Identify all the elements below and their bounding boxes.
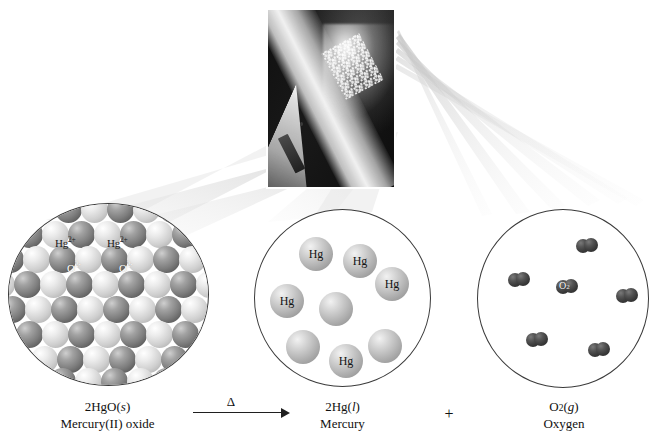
oxygen-molecule (576, 238, 598, 253)
atom-label-hg: Hg (339, 355, 354, 367)
product-oxygen-name: Oxygen (478, 415, 650, 432)
mercury-atom: Hg (329, 344, 363, 378)
mercury-atom: Hg (270, 284, 304, 318)
mercury-atom: Hg (343, 244, 377, 278)
mercury-atom-unlabeled (368, 329, 402, 363)
oxygen-molecule (526, 332, 548, 347)
magnified-view-mercury: Hg Hg Hg Hg Hg (254, 209, 431, 387)
ion-label-o-2: O2- (119, 261, 133, 274)
product-oxygen-formula: O2(g) (478, 398, 650, 415)
caption-reactant: 2HgO(s) Mercury(II) oxide (0, 398, 215, 432)
reactant-name: Mercury(II) oxide (0, 415, 215, 432)
caption-product-oxygen: O2(g) Oxygen (478, 398, 650, 432)
ionic-lattice: Hg2+ Hg2+ O2- O2- (8, 203, 209, 386)
ion-label-hg-1: Hg2+ (55, 236, 76, 249)
molecule-label-o2: O2 (559, 281, 570, 291)
magnified-view-oxygen: O2 (477, 209, 649, 388)
atom-label-hg: Hg (309, 248, 324, 260)
tube-speck (300, 122, 303, 126)
plus-operator: + (429, 405, 469, 423)
reactant-formula: 2HgO(s) (0, 398, 215, 415)
oxygen-molecule-labeled: O2 (556, 279, 578, 294)
magnified-view-mercury-oxide: Hg2+ Hg2+ O2- O2- (8, 203, 209, 386)
atom-label-hg: Hg (385, 278, 400, 290)
flame-glare (323, 24, 394, 123)
atom-label-hg: Hg (280, 295, 295, 307)
figure-decomposition-mercury-oxide: Hg2+ Hg2+ O2- O2- Hg Hg Hg Hg Hg (0, 0, 661, 443)
ion-label-hg-2: Hg2+ (107, 236, 128, 249)
caption-product-mercury: 2Hg(l) Mercury (255, 398, 430, 432)
reaction-photograph (266, 8, 396, 189)
oxygen-molecule (588, 342, 610, 357)
product-mercury-name: Mercury (255, 415, 430, 432)
oxygen-molecule (508, 272, 530, 287)
oxygen-molecule (616, 288, 638, 303)
ion-label-o-1: O2- (67, 261, 81, 274)
mercury-atom-unlabeled (319, 292, 353, 326)
atom-label-hg: Hg (353, 255, 368, 267)
mercury-atom-unlabeled (286, 330, 320, 364)
mercury-atom: Hg (375, 267, 409, 301)
mercury-atom: Hg (299, 237, 333, 271)
product-mercury-formula: 2Hg(l) (255, 398, 430, 415)
